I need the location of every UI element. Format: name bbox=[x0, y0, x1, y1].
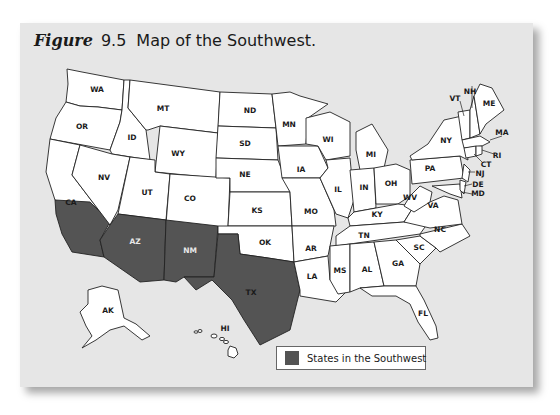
label-wi: WI bbox=[322, 135, 333, 144]
state-pa[interactable] bbox=[410, 156, 464, 184]
label-mi: MI bbox=[366, 150, 376, 159]
label-vt: VT bbox=[450, 94, 462, 103]
label-mt: MT bbox=[157, 104, 170, 113]
state-mt[interactable] bbox=[128, 80, 220, 133]
label-ut: UT bbox=[141, 188, 153, 197]
label-ky: KY bbox=[371, 210, 383, 219]
label-ma: MA bbox=[495, 128, 508, 137]
label-tn: TN bbox=[358, 231, 369, 240]
state-co[interactable] bbox=[166, 174, 230, 228]
label-wa: WA bbox=[90, 85, 104, 94]
label-tx: TX bbox=[246, 288, 257, 297]
label-il: IL bbox=[334, 185, 342, 194]
label-wy: WY bbox=[171, 149, 185, 158]
label-hi: HI bbox=[220, 324, 229, 333]
label-nc: NC bbox=[434, 225, 446, 234]
label-de: DE bbox=[472, 180, 483, 189]
label-ms: MS bbox=[334, 266, 347, 275]
label-me: ME bbox=[483, 99, 496, 108]
label-va: VA bbox=[427, 201, 438, 210]
label-mn: MN bbox=[282, 120, 296, 129]
label-ak: AK bbox=[102, 306, 115, 315]
label-nm: NM bbox=[183, 246, 197, 255]
label-pa: PA bbox=[425, 164, 436, 173]
label-ri: RI bbox=[493, 151, 502, 160]
state-ct[interactable] bbox=[464, 146, 476, 158]
legend-label: States in the Southwest bbox=[307, 353, 426, 364]
label-wv: WV bbox=[403, 193, 417, 202]
state-ak[interactable] bbox=[80, 286, 150, 348]
label-oh: OH bbox=[385, 179, 398, 188]
state-hi[interactable] bbox=[194, 330, 238, 359]
label-az: AZ bbox=[129, 237, 141, 246]
state-mi[interactable] bbox=[356, 124, 388, 170]
label-fl: FL bbox=[418, 309, 428, 318]
label-sd: SD bbox=[239, 139, 251, 148]
label-nv: NV bbox=[98, 173, 110, 182]
label-co: CO bbox=[184, 194, 196, 203]
label-in: IN bbox=[359, 183, 368, 192]
label-ny: NY bbox=[440, 136, 452, 145]
label-ga: GA bbox=[392, 259, 404, 268]
label-al: AL bbox=[362, 265, 373, 274]
label-sc: SC bbox=[414, 243, 425, 252]
label-nh: NH bbox=[464, 87, 477, 96]
label-ne: NE bbox=[239, 170, 250, 179]
state-wy[interactable] bbox=[155, 126, 218, 178]
label-md: MD bbox=[471, 189, 485, 198]
label-nj: NJ bbox=[475, 169, 484, 178]
state-nj[interactable] bbox=[462, 164, 470, 182]
label-ca: CA bbox=[65, 198, 77, 207]
label-nd: ND bbox=[244, 106, 257, 115]
state-me[interactable] bbox=[474, 84, 504, 134]
label-or: OR bbox=[76, 122, 88, 131]
label-ok: OK bbox=[259, 238, 272, 247]
label-la: LA bbox=[307, 272, 318, 281]
label-mo: MO bbox=[304, 207, 318, 216]
label-ct: CT bbox=[481, 160, 493, 169]
label-ia: IA bbox=[297, 165, 306, 174]
label-id: ID bbox=[127, 133, 136, 142]
label-ar: AR bbox=[305, 244, 317, 253]
map-legend: States in the Southwest bbox=[276, 346, 426, 370]
state-ri[interactable] bbox=[476, 146, 482, 156]
label-ks: KS bbox=[251, 206, 262, 215]
legend-swatch bbox=[285, 351, 299, 365]
state-md[interactable] bbox=[432, 184, 462, 198]
